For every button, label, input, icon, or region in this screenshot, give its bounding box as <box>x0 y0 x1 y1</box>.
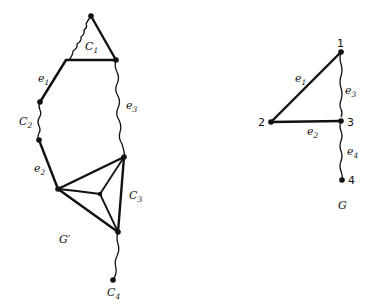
graph-g-prime: C1 e1 C2 e2 e3 C3 G′ C4 <box>19 13 142 301</box>
label-e3: e3 <box>345 84 357 99</box>
edge-c2-wavy <box>38 102 41 140</box>
edge-e3-wavy <box>340 52 342 117</box>
graph-g: 1 2 3 4 e1 e2 e3 e4 G <box>258 37 359 212</box>
node-c3-center <box>98 192 102 196</box>
edge-e2 <box>39 140 58 189</box>
node-c3-bottom <box>115 229 121 235</box>
edge-c3-bottom <box>58 189 118 232</box>
label-vertex-4: 4 <box>348 174 355 187</box>
edge-e2 <box>271 121 341 122</box>
node-c3-top <box>121 154 127 160</box>
node-c1-right <box>113 57 119 63</box>
edge-e4-wavy <box>340 121 342 180</box>
node-1 <box>338 49 344 55</box>
label-e4: e4 <box>347 145 359 160</box>
edge-e1 <box>271 52 341 122</box>
node-4 <box>339 177 345 183</box>
label-e2: e2 <box>307 125 319 140</box>
label-vertex-2: 2 <box>258 116 265 129</box>
label-vertex-3: 3 <box>347 116 354 129</box>
edge-e3-wavy <box>115 60 125 157</box>
label-g-prime: G′ <box>59 233 71 246</box>
node-c2-top <box>37 99 43 105</box>
label-e1: e1 <box>38 72 49 87</box>
node-3 <box>338 118 344 124</box>
label-g: G <box>338 199 347 212</box>
label-c4: C4 <box>107 286 120 301</box>
label-c3: C3 <box>129 189 142 204</box>
label-c2: C2 <box>19 115 32 130</box>
node-2 <box>268 119 274 125</box>
label-c1: C1 <box>85 40 98 55</box>
label-e3: e3 <box>126 99 138 114</box>
node-top <box>88 13 94 19</box>
label-e1: e1 <box>295 72 306 87</box>
diagram-canvas: C1 e1 C2 e2 e3 C3 G′ C4 1 <box>0 0 369 307</box>
label-e2: e2 <box>34 162 46 177</box>
node-c4 <box>110 277 116 283</box>
edge-c1-left-wavy <box>69 16 91 60</box>
node-c3-left <box>55 186 61 192</box>
edge-c3-right <box>118 157 124 232</box>
edge-c4-wavy <box>113 232 119 280</box>
node-c2-bottom <box>36 137 42 143</box>
label-vertex-1: 1 <box>337 37 344 50</box>
